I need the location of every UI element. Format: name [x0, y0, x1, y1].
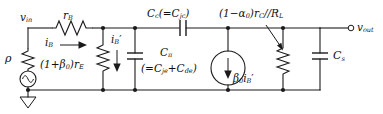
- label-cpi: Cπ: [160, 47, 172, 59]
- label-v-in: vin: [20, 12, 32, 24]
- current-arrow-ib: [60, 41, 87, 48]
- circuit-diagram: vin ρ rB iB iB′ (1+β0)rE Cc(=Cjc) Cπ (=C…: [0, 0, 383, 114]
- schematic-canvas: [0, 0, 383, 114]
- ground-icon: [20, 90, 36, 108]
- label-cs: Cs: [333, 50, 345, 62]
- current-arrow-ib-prime: [113, 50, 120, 72]
- label-load-resistance: (1−α0)rC//RL: [219, 8, 283, 20]
- ac-voltage-source: [20, 71, 36, 90]
- capacitor-cpi: [127, 28, 143, 90]
- resistor-load: [277, 28, 289, 90]
- resistor-rb: [52, 21, 93, 35]
- label-cpi-expression: (=Cje+Cde): [141, 63, 197, 75]
- capacitor-cc: [180, 20, 186, 36]
- label-re: (1+β0)rE: [40, 59, 84, 71]
- resistor-rho: [22, 48, 34, 71]
- label-ib-prime: iB′: [111, 34, 122, 46]
- load-label-pointer: [266, 25, 283, 51]
- label-ib: iB: [45, 37, 53, 49]
- label-dependent-source: β0iB′: [233, 73, 254, 85]
- label-cc: Cc(=Cjc): [147, 8, 189, 20]
- label-rb: rB: [63, 10, 73, 22]
- output-terminal: [348, 25, 354, 31]
- capacitor-cs: [312, 28, 328, 90]
- label-rho: ρ: [5, 53, 11, 64]
- resistor-re: [97, 28, 109, 90]
- label-v-out: vout: [357, 22, 374, 34]
